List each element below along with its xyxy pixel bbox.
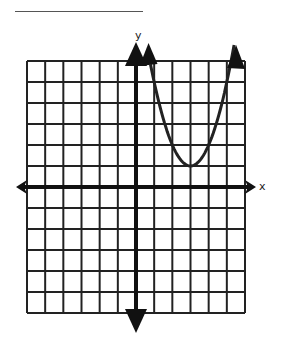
curve-left-arrow-icon (140, 43, 158, 66)
coordinate-plane (0, 0, 281, 347)
curve-right-arrow-icon (227, 45, 245, 69)
y-axis-label: y (135, 29, 142, 42)
parabola-curve (151, 45, 235, 166)
x-axis-label: x (259, 180, 266, 193)
y-axis-down-arrow-icon (125, 309, 147, 333)
